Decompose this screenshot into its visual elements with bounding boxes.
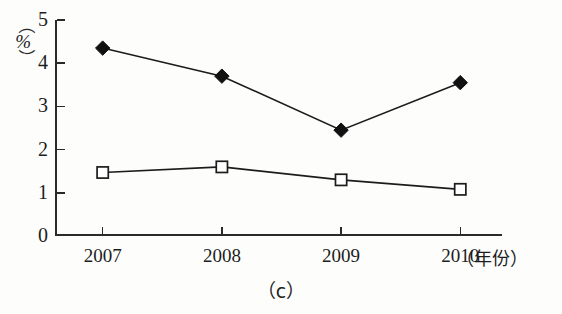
data-point-s2-2009 bbox=[335, 174, 346, 185]
data-point-s2-2008 bbox=[216, 161, 227, 172]
line-chart-figure: （ % ） 012345 2007200820092010 （年份） （c） bbox=[0, 0, 562, 314]
y-unit-percent-symbol: % bbox=[15, 32, 30, 51]
y-unit-paren-close: ） bbox=[18, 49, 29, 66]
series-line-1 bbox=[103, 48, 461, 130]
data-point-s2-2010 bbox=[455, 184, 466, 195]
figure-caption: （c） bbox=[0, 276, 562, 303]
y-tick-label-2: 2 bbox=[38, 138, 48, 161]
y-unit-paren-open: （ bbox=[18, 17, 29, 34]
series-line-2 bbox=[103, 167, 461, 189]
plot-area: 012345 2007200820092010 bbox=[55, 20, 502, 236]
y-tick-label-0: 0 bbox=[38, 224, 48, 247]
data-point-s1-2010 bbox=[453, 75, 467, 89]
y-tick-label-3: 3 bbox=[38, 94, 48, 117]
data-point-s1-2008 bbox=[215, 69, 229, 83]
x-tick-label-2009: 2009 bbox=[322, 245, 360, 267]
x-tick-label-2007: 2007 bbox=[84, 245, 122, 267]
y-tick-label-5: 5 bbox=[38, 8, 48, 31]
x-axis-unit-label: （年份） bbox=[456, 244, 528, 270]
data-point-s1-2009 bbox=[334, 123, 348, 137]
y-tick-label-4: 4 bbox=[38, 51, 48, 74]
data-point-s2-2007 bbox=[97, 167, 108, 178]
y-axis-unit-label: （ % ） bbox=[6, 8, 40, 74]
y-tick-label-1: 1 bbox=[38, 181, 48, 204]
x-tick-label-2008: 2008 bbox=[203, 245, 241, 267]
data-point-s1-2007 bbox=[95, 41, 109, 55]
data-series-layer bbox=[55, 20, 502, 236]
